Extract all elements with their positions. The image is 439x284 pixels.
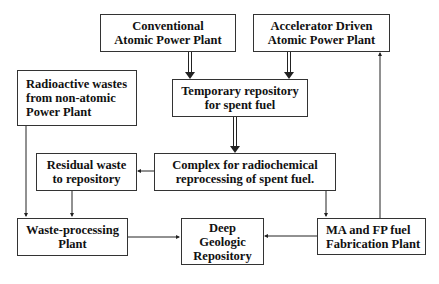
node-label-line: Radioactive wastes <box>26 77 127 91</box>
node-label-line: Residual waste <box>47 158 127 172</box>
node-label-line: Repository <box>193 249 251 263</box>
node-label-line: Conventional <box>132 19 204 33</box>
node-label-line: Plant <box>58 237 86 251</box>
node-label-line: reprocessing of spent fuel. <box>176 172 314 186</box>
node-label-line: Atomic Power Plant <box>114 33 221 47</box>
node-conventional-atomic-power-plant: Conventional Atomic Power Plant <box>100 14 236 52</box>
node-label-line: Geologic <box>199 235 246 249</box>
node-radioactive-wastes: Radioactive wastes from non-atomic Power… <box>17 70 137 126</box>
node-label-line: Power Plant <box>26 105 91 119</box>
node-label-line: to repository <box>52 172 120 186</box>
node-label-line: from non-atomic <box>26 91 116 105</box>
node-label-line: Temporary repository <box>181 84 299 98</box>
node-label-line: Waste-processing <box>26 223 119 237</box>
node-residual-waste: Residual waste to repository <box>36 153 137 191</box>
arrow-conventional-to-temporary <box>185 51 195 79</box>
node-label-line: Accelerator Driven <box>270 19 372 33</box>
node-label-line: MA and FP fuel <box>326 223 410 237</box>
node-ma-fp-fuel-fabrication-plant: MA and FP fuel Fabrication Plant <box>317 218 426 255</box>
node-temporary-repository: Temporary repository for spent fuel <box>172 79 308 117</box>
node-label-line: Deep <box>209 221 236 235</box>
node-waste-processing-plant: Waste-processing Plant <box>17 218 128 256</box>
node-radiochemical-complex: Complex for radiochemical reprocessing o… <box>154 153 336 191</box>
node-label-line: for spent fuel <box>205 98 276 112</box>
arrow-temporary-to-complex <box>230 116 240 153</box>
arrow-accelerator-to-temporary <box>284 51 294 79</box>
node-label-line: Complex for radiochemical <box>172 158 318 172</box>
node-accelerator-driven-atomic-power-plant: Accelerator Driven Atomic Power Plant <box>253 14 390 52</box>
node-label-line: Fabrication Plant <box>326 237 420 251</box>
node-deep-geologic-repository: Deep Geologic Repository <box>181 218 264 265</box>
node-label-line: Atomic Power Plant <box>268 33 375 47</box>
